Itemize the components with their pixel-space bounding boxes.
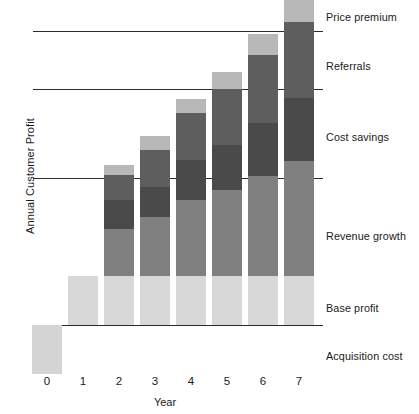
bar-segment-cost-savings-year-4 [176,160,206,200]
bar-segment-referrals-year-7 [284,22,314,98]
bar-segment-revenue-growth-year-6 [248,176,278,276]
bar-segment-revenue-growth-year-3 [140,217,170,276]
x-tick-0: 0 [35,375,59,387]
bar-segment-base-profit-year-2 [104,276,134,325]
bar-segment-revenue-growth-year-2 [104,229,134,276]
label-base-profit: Base profit [326,302,379,314]
bar-segment-acquisition-cost-year-0 [32,325,62,374]
bar-segment-referrals-year-3 [140,150,170,187]
bar-segment-cost-savings-year-7 [284,98,314,161]
x-tick-7: 7 [287,375,311,387]
bar-segment-base-profit-year-6 [248,276,278,325]
x-tick-5: 5 [215,375,239,387]
bar-segment-base-profit-year-1 [68,276,98,325]
bar-segment-price-premium-year-2 [104,165,134,175]
bar-segment-price-premium-year-7 [284,0,314,22]
x-tick-4: 4 [179,375,203,387]
bar-segment-cost-savings-year-6 [248,123,278,176]
gridline-price-premium [33,31,323,32]
bar-segment-base-profit-year-5 [212,276,242,325]
bar-segment-revenue-growth-year-4 [176,200,206,276]
bar-segment-revenue-growth-year-5 [212,190,242,276]
chart-canvas: Annual Customer Profit 0 1 2 3 4 5 6 7 Y… [0,0,419,414]
x-tick-2: 2 [107,375,131,387]
bar-segment-referrals-year-5 [212,89,242,145]
bar-segment-price-premium-year-5 [212,72,242,89]
bar-segment-referrals-year-4 [176,113,206,160]
label-cost-savings: Cost savings [326,131,389,143]
bar-segment-base-profit-year-3 [140,276,170,325]
label-acquisition-cost: Acquisition cost [326,350,403,362]
label-revenue-growth: Revenue growth [326,230,406,242]
x-tick-3: 3 [143,375,167,387]
bar-segment-cost-savings-year-2 [104,200,134,229]
bar-segment-referrals-year-2 [104,175,134,200]
gridline-referrals [33,89,323,90]
bar-segment-base-profit-year-4 [176,276,206,325]
x-tick-6: 6 [251,375,275,387]
bar-segment-price-premium-year-3 [140,136,170,150]
bar-segment-revenue-growth-year-7 [284,161,314,276]
bar-segment-cost-savings-year-5 [212,145,242,190]
bar-segment-price-premium-year-6 [248,34,278,55]
label-price-premium: Price premium [326,11,397,23]
y-axis-title: Annual Customer Profit [24,76,36,276]
bar-segment-price-premium-year-4 [176,99,206,114]
label-referrals: Referrals [326,60,371,72]
x-axis-title: Year [0,396,330,408]
gridline-baseline [33,325,323,326]
x-tick-1: 1 [71,375,95,387]
bar-segment-base-profit-year-7 [284,276,314,325]
bar-segment-referrals-year-6 [248,55,278,123]
bar-segment-cost-savings-year-3 [140,187,170,217]
